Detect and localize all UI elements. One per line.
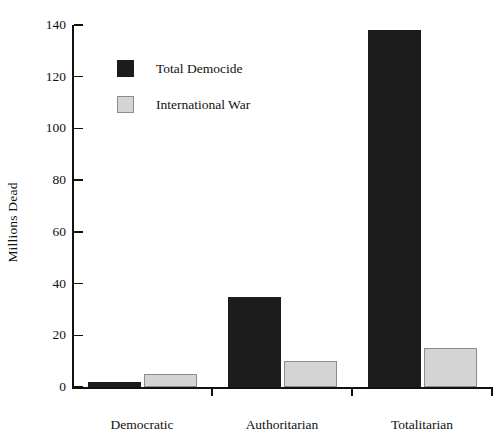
black-square-swatch [117,60,134,77]
legend-label: Total Democide [156,61,242,76]
x-axis-label-totalitarian: Totalitarian [352,417,492,433]
chart-legend: Total DemocideInternational War [117,50,337,122]
legend-item-total-democide: Total Democide [117,50,337,86]
bar-democratic-total-democide [88,382,141,387]
x-axis-tick [351,387,353,396]
y-axis-tick-label: 40 [26,277,66,291]
gray-square-swatch [117,96,134,113]
bar-totalitarian-international-war [424,348,477,387]
y-axis-line [72,25,74,387]
y-axis-tick-label: 20 [26,328,66,342]
chart-canvas: Millions Dead 020406080100120140 Democra… [0,0,502,445]
y-axis-tick [74,128,83,130]
y-axis-tick-label: 100 [26,121,66,135]
y-axis-tick-label: 80 [26,173,66,187]
y-axis-tick-label: 0 [26,380,66,394]
x-axis-line [72,387,492,389]
y-axis-tick [74,386,83,388]
x-axis-label-authoritarian: Authoritarian [212,417,352,433]
bar-authoritarian-total-democide [228,297,281,388]
x-axis-tick [211,387,213,396]
y-axis-tick [74,283,83,285]
y-axis-title: Millions Dead [0,0,26,445]
legend-item-international-war: International War [117,86,337,122]
y-axis-tick-labels: 020406080100120140 [26,25,66,387]
bar-totalitarian-total-democide [368,30,421,387]
y-axis-tick [74,335,83,337]
x-axis-label-democratic: Democratic [72,417,212,433]
y-axis-tick [74,231,83,233]
legend-label: International War [156,97,250,112]
y-axis-tick [74,24,83,26]
y-axis-tick-label: 60 [26,225,66,239]
bar-authoritarian-international-war [284,361,337,387]
y-axis-tick [74,179,83,181]
y-axis-tick-label: 140 [26,18,66,32]
x-axis-tick [491,387,493,396]
y-axis-tick [74,76,83,78]
y-axis-tick-label: 120 [26,70,66,84]
bar-democratic-international-war [144,374,197,387]
